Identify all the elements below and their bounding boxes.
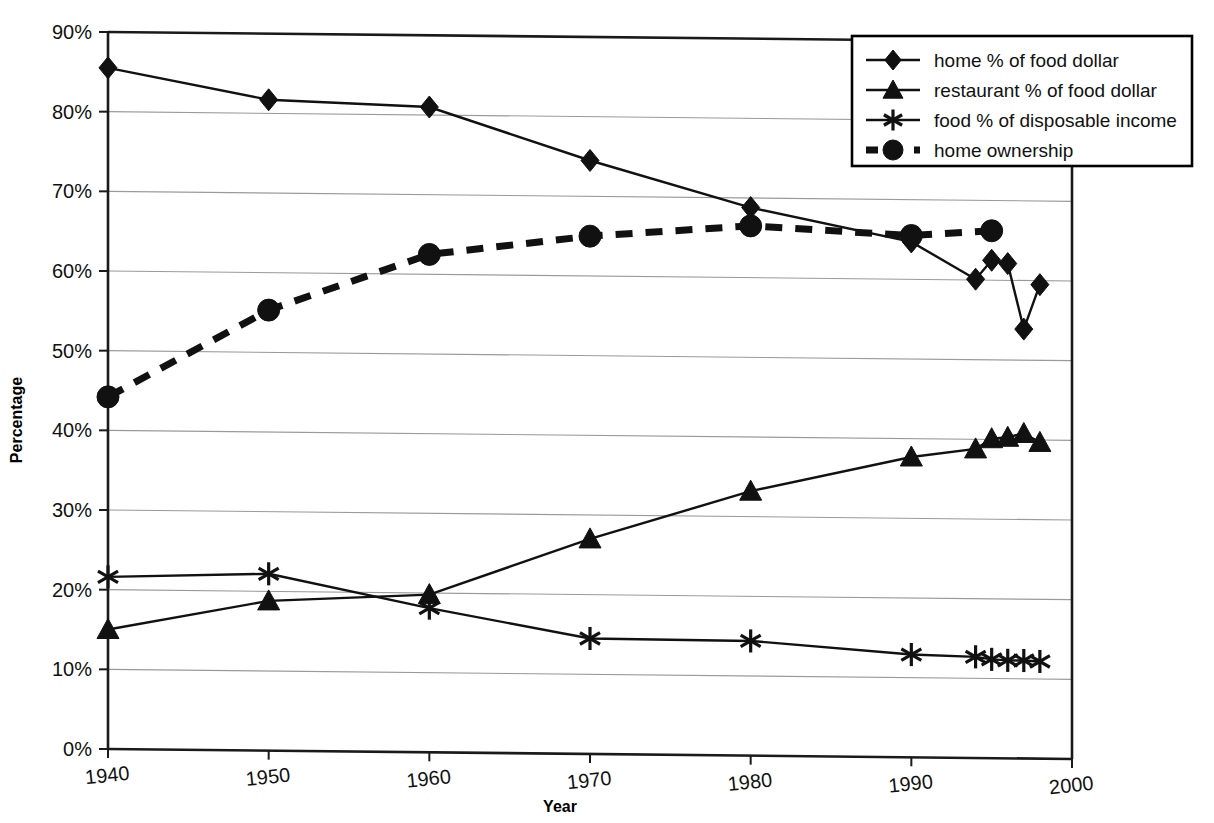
y-axis-tick-label: 70% [52,180,92,202]
data-point-marker [1031,274,1049,296]
data-point-marker [581,149,599,171]
legend-item-label: home % of food dollar [934,50,1120,71]
data-point-marker [258,299,280,321]
y-axis-tick-label: 10% [52,658,92,680]
y-axis-title: Percentage [8,377,25,463]
x-axis-title: Year [543,798,577,815]
series-line [108,226,992,397]
data-point-marker [99,57,117,79]
gridline [108,590,1072,600]
chart-legend: home % of food dollarrestaurant % of foo… [852,36,1192,166]
legend-item-3[interactable]: home ownership [866,140,1073,161]
gridline [108,351,1072,361]
y-axis-tick-label: 50% [52,340,92,362]
data-point-marker [900,225,922,247]
data-point-marker [740,215,762,237]
legend-item-label: home ownership [934,140,1073,161]
y-axis-tick-label: 60% [52,260,92,282]
legend-marker-circle-icon [883,140,903,160]
data-point-marker [999,253,1017,275]
gridline [108,271,1072,281]
series-2 [98,562,1050,673]
chart-canvas: 0%10%20%30%40%50%60%70%80%90% 1940195019… [0,0,1214,823]
y-axis-tick-label: 90% [52,21,92,43]
x-axis-tick-label: 1980 [727,768,774,795]
gridline [108,430,1072,440]
x-axis-tick-label: 1960 [405,765,452,792]
y-axis-tick-label: 0% [63,738,92,760]
x-axis-tick-label: 1970 [566,767,613,794]
y-axis-tick-label: 30% [52,499,92,521]
chart-container: 0%10%20%30%40%50%60%70%80%90% 1940195019… [0,0,1214,823]
data-point-marker [1015,318,1033,340]
y-axis-tick-label: 20% [52,579,92,601]
series-line [108,574,1040,662]
series-3 [97,215,1003,408]
gridline [108,510,1072,520]
y-axis-tick-label: 40% [52,419,92,441]
data-point-marker [579,528,601,548]
x-axis-tick-label: 1940 [84,762,131,789]
data-point-marker [260,89,278,111]
series-1 [97,422,1051,638]
gridline [108,191,1072,201]
gridline [108,669,1072,679]
legend-item-label: food % of disposable income [934,110,1177,131]
legend-item-label: restaurant % of food dollar [934,80,1158,101]
data-point-marker [981,220,1003,242]
data-point-marker [1013,422,1035,442]
series-line [108,433,1040,629]
y-axis-tick-label: 80% [52,101,92,123]
data-point-marker [579,225,601,247]
x-axis-tick-label: 1990 [887,770,934,797]
x-axis-tick-label: 1950 [245,763,292,790]
x-axis-tick-label: 2000 [1048,772,1095,799]
data-point-marker [97,386,119,408]
data-point-marker [418,243,440,265]
